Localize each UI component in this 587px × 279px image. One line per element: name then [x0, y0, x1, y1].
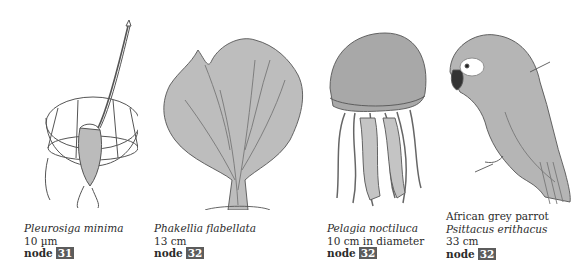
specimen-caption-2: Phakellia flabellata 13 cm node32 [154, 222, 256, 260]
node-reference: node32 [327, 247, 424, 260]
size: 33 cm [446, 235, 549, 248]
node-badge: 32 [186, 247, 205, 259]
node-reference: node31 [24, 247, 123, 260]
specimen-caption-1: Pleurosiga minima 10 µm node31 [24, 222, 123, 260]
scientific-name: Psittacus erithacus [446, 223, 549, 236]
node-reference: node32 [154, 247, 256, 260]
size: 10 cm in diameter [327, 235, 424, 248]
specimen-caption-4: African grey parrot Psittacus erithacus … [446, 210, 549, 260]
jellyfish-illustration [325, 28, 435, 208]
size: 10 µm [24, 235, 123, 248]
sponge-illustration [150, 30, 310, 210]
node-badge: 31 [56, 247, 75, 259]
specimen-caption-3: Pelagia noctiluca 10 cm in diameter node… [327, 222, 424, 260]
node-badge: 32 [478, 248, 497, 260]
size: 13 cm [154, 235, 256, 248]
scientific-name: Phakellia flabellata [154, 222, 256, 235]
choanoflagellate-illustration [18, 8, 138, 208]
parrot-illustration [445, 32, 575, 207]
scientific-name: Pleurosiga minima [24, 222, 123, 235]
node-reference: node32 [446, 248, 549, 261]
node-badge: 32 [359, 247, 378, 259]
scientific-name: Pelagia noctiluca [327, 222, 424, 235]
common-name: African grey parrot [446, 210, 549, 223]
